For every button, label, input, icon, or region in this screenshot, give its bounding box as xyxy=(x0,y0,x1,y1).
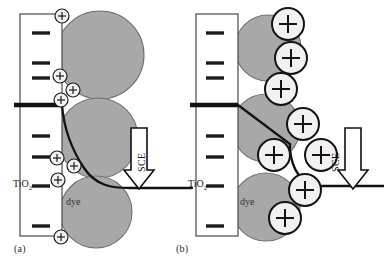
cation-small xyxy=(50,151,64,165)
cation-large xyxy=(289,174,321,206)
cation-small xyxy=(51,173,65,187)
cation-small xyxy=(67,159,81,173)
tio2-slab xyxy=(20,14,62,236)
sce-label-a: SCE xyxy=(136,152,147,172)
sce-label-b: SCE xyxy=(330,152,341,172)
cation-large xyxy=(275,42,307,74)
tio2-subscript: 2 xyxy=(29,184,33,192)
dye-label-b: dye xyxy=(240,196,254,207)
cation-small xyxy=(54,93,68,107)
tio2-slab xyxy=(196,14,238,236)
panel-a-group xyxy=(14,9,192,248)
cation-large xyxy=(258,139,290,171)
tio2-label-text: TiO xyxy=(13,178,29,189)
tio2-subscript: 2 xyxy=(204,184,208,192)
panel-caption-a: (a) xyxy=(14,243,26,254)
panel-caption-b: (b) xyxy=(176,243,188,254)
cation-small xyxy=(66,83,80,97)
sce-arrow-b xyxy=(338,128,368,189)
cation-large xyxy=(265,73,297,105)
tio2-label-a: TiO2 xyxy=(13,178,32,192)
cation-small xyxy=(55,9,69,23)
tio2-label-b: TiO2 xyxy=(188,178,207,192)
diagram-canvas xyxy=(0,0,384,262)
panel-b-group xyxy=(190,8,384,241)
cation-large xyxy=(269,202,301,234)
cation-large xyxy=(287,108,319,140)
figure-container: TiO2 TiO2 dye dye SCE SCE (a) (b) xyxy=(0,0,384,262)
cation-small xyxy=(54,230,68,244)
cation-large xyxy=(272,8,304,40)
cation-small xyxy=(53,69,67,83)
dye-label-a: dye xyxy=(66,196,80,207)
tio2-label-text: TiO xyxy=(188,178,204,189)
